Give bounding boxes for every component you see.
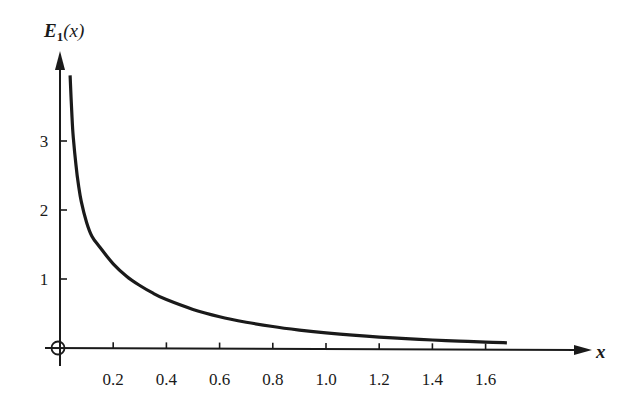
ticks: 0.20.40.60.81.01.21.41.6123: [40, 132, 496, 389]
x-tick-label: 0.2: [103, 370, 124, 389]
x-tick-label: 0.4: [156, 370, 178, 389]
x-tick-label: 1.2: [369, 370, 390, 389]
axes: [45, 51, 592, 366]
y-axis-arrow-icon: [55, 51, 65, 70]
x-tick-label: 1.4: [422, 370, 444, 389]
x-axis-arrow-icon: [574, 345, 592, 355]
y-tick-label: 2: [40, 201, 49, 220]
y-axis-title: E1(x): [43, 20, 84, 44]
e1-series-line: [70, 75, 507, 342]
e1-curve: [70, 75, 507, 342]
y-tick-label: 3: [40, 132, 49, 151]
axis-labels: E1(x) x: [43, 20, 606, 362]
y-tick-label: 1: [40, 270, 49, 289]
x-axis: [45, 348, 578, 350]
chart: 0.20.40.60.81.01.21.41.6123 E1(x) x: [0, 0, 627, 404]
x-tick-label: 0.6: [209, 370, 230, 389]
x-tick-label: 1.6: [475, 370, 496, 389]
x-axis-title: x: [595, 341, 606, 362]
x-tick-label: 1.0: [315, 370, 336, 389]
x-tick-label: 0.8: [262, 370, 283, 389]
